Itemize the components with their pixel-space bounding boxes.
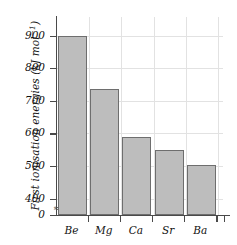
- y-axis-tick: [50, 133, 57, 134]
- x-axis-tick-label: Mg: [89, 224, 118, 236]
- x-axis-tick-label: Ca: [121, 224, 150, 236]
- bar: [122, 137, 151, 215]
- bar: [58, 36, 87, 215]
- y-axis-tick-label: 500: [25, 159, 45, 171]
- bar: [155, 150, 184, 215]
- y-axis-tick-label: 800: [25, 61, 45, 73]
- y-axis-tick-label: 0: [38, 208, 45, 220]
- y-axis-title-tail: ): [29, 21, 41, 25]
- y-axis-tick: [50, 101, 57, 102]
- bar: [90, 89, 119, 215]
- x-axis-tick: [88, 215, 89, 222]
- x-axis-tick-label: Be: [57, 224, 86, 236]
- gridline-vertical: [218, 17, 219, 215]
- y-axis-tick: [50, 68, 57, 69]
- x-axis-tick-label: Ba: [186, 224, 215, 236]
- y-axis-tick-label: 700: [25, 94, 45, 106]
- x-axis-tick: [224, 215, 225, 222]
- y-axis-tick-label: 600: [25, 126, 45, 138]
- x-axis-tick: [152, 215, 153, 222]
- bar: [187, 165, 216, 215]
- y-axis-tick-label: 900: [25, 29, 45, 41]
- bar-chart: First ionisation energies (kJ mol−1) ≈ 0…: [0, 0, 237, 245]
- x-axis-line: [56, 215, 230, 216]
- y-axis-tick: [50, 199, 57, 200]
- x-axis-tick: [184, 215, 185, 222]
- y-axis-tick: [50, 166, 57, 167]
- y-axis-tick: [50, 215, 57, 216]
- y-axis-tick: [50, 36, 57, 37]
- y-axis-tick-label: 400: [25, 192, 45, 204]
- x-axis-tick: [216, 215, 217, 222]
- y-axis-title: First ionisation energies (kJ mol−1): [28, 18, 42, 213]
- x-axis-tick: [120, 215, 121, 222]
- x-axis-tick-label: Sr: [154, 224, 183, 236]
